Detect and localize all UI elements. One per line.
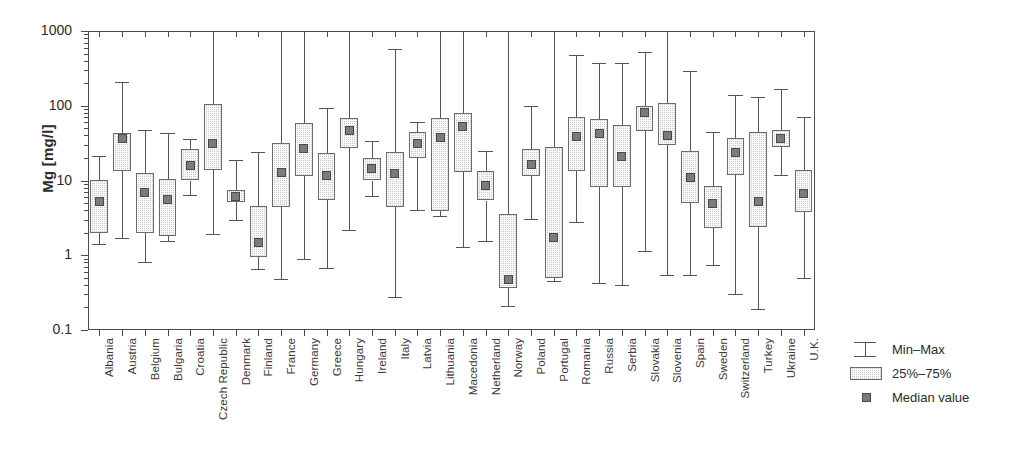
y-tick-major bbox=[81, 181, 88, 182]
x-tick-bottom bbox=[667, 330, 668, 336]
x-tick-label: Greece bbox=[331, 338, 343, 376]
y-tick-minor bbox=[84, 109, 88, 110]
y-tick-minor bbox=[84, 113, 88, 114]
x-tick-top bbox=[145, 31, 146, 37]
y-tick-minor bbox=[84, 122, 88, 123]
x-tick-top bbox=[758, 31, 759, 37]
x-tick-label: Serbia bbox=[626, 338, 638, 372]
y-tick-minor bbox=[84, 192, 88, 193]
x-tick-label: U.K. bbox=[808, 338, 820, 361]
x-tick-bottom bbox=[281, 330, 282, 336]
y-tick-major bbox=[81, 255, 88, 256]
x-tick-label: Poland bbox=[535, 338, 547, 374]
x-tick-label: Slovenia bbox=[671, 338, 683, 383]
x-tick-bottom bbox=[440, 330, 441, 336]
min-max-icon bbox=[846, 339, 886, 359]
whisker-lower bbox=[804, 212, 805, 278]
x-tick-label: Switzerland bbox=[739, 338, 751, 399]
legend-item-median: Median value bbox=[846, 385, 1016, 409]
x-tick-bottom bbox=[599, 330, 600, 336]
x-tick-top bbox=[440, 31, 441, 37]
x-tick-top bbox=[781, 31, 782, 37]
x-tick-bottom bbox=[99, 330, 100, 336]
y-tick-minor bbox=[84, 188, 88, 189]
y-tick-minor bbox=[84, 54, 88, 55]
x-tick-label: Norway bbox=[512, 338, 524, 378]
y-tick-minor bbox=[84, 34, 88, 35]
y-tick-minor bbox=[84, 83, 88, 84]
y-tick-minor bbox=[84, 128, 88, 129]
median-marker-icon bbox=[846, 387, 886, 407]
x-tick-top bbox=[349, 31, 350, 37]
y-tick-minor bbox=[84, 272, 88, 273]
y-tick-minor bbox=[84, 294, 88, 295]
x-tick-label: Netherland bbox=[490, 338, 502, 395]
x-tick-top bbox=[576, 31, 577, 37]
legend-label-min-max: Min–Max bbox=[886, 342, 945, 357]
y-tick-major bbox=[81, 330, 88, 331]
x-tick-bottom bbox=[531, 330, 532, 336]
y-tick-minor bbox=[84, 285, 88, 286]
x-tick-top bbox=[304, 31, 305, 37]
x-tick-bottom bbox=[804, 330, 805, 336]
x-tick-bottom bbox=[349, 330, 350, 336]
x-tick-top bbox=[554, 31, 555, 37]
y-tick-minor bbox=[84, 158, 88, 159]
median-marker bbox=[799, 189, 808, 198]
x-tick-label: Turkey bbox=[762, 338, 774, 373]
x-tick-top bbox=[508, 31, 509, 37]
x-tick-top bbox=[213, 31, 214, 37]
y-tick-minor bbox=[84, 184, 88, 185]
quartile-box-icon bbox=[846, 363, 886, 383]
x-tick-top bbox=[486, 31, 487, 37]
x-tick-label: Portugal bbox=[558, 338, 570, 382]
x-tick-bottom bbox=[576, 330, 577, 336]
x-tick-label: France bbox=[285, 338, 297, 374]
x-tick-label: Belgium bbox=[149, 338, 161, 380]
x-tick-label: Lithuania bbox=[444, 338, 456, 386]
x-tick-label: Bulgaria bbox=[172, 338, 184, 381]
y-tick-major bbox=[81, 31, 88, 32]
y-tick-minor bbox=[84, 48, 88, 49]
x-tick-top bbox=[327, 31, 328, 37]
x-tick-label: Latvia bbox=[421, 338, 433, 369]
x-tick-label: Spain bbox=[694, 338, 706, 368]
legend-label-quartiles: 25%–75% bbox=[886, 366, 951, 381]
x-tick-label: Macedonia bbox=[467, 338, 479, 395]
y-tick-minor bbox=[84, 210, 88, 211]
x-tick-bottom bbox=[372, 330, 373, 336]
legend-label-median: Median value bbox=[886, 390, 969, 405]
x-tick-top bbox=[190, 31, 191, 37]
x-tick-label: Italy bbox=[399, 338, 411, 360]
x-tick-top bbox=[258, 31, 259, 37]
y-tick-minor bbox=[84, 220, 88, 221]
x-tick-bottom bbox=[168, 330, 169, 336]
x-tick-top bbox=[599, 31, 600, 37]
x-tick-label: Russia bbox=[603, 338, 615, 374]
x-tick-top bbox=[713, 31, 714, 37]
whisker-cap-upper bbox=[797, 117, 811, 118]
x-tick-label: Romania bbox=[580, 338, 592, 385]
x-tick-label: Denmark bbox=[240, 338, 252, 385]
x-tick-label: Slovakia bbox=[649, 338, 661, 382]
y-tick-minor bbox=[84, 70, 88, 71]
x-tick-top bbox=[99, 31, 100, 37]
y-tick-major bbox=[81, 106, 88, 107]
x-tick-label: Sweden bbox=[717, 338, 729, 380]
x-tick-top bbox=[463, 31, 464, 37]
x-tick-top bbox=[417, 31, 418, 37]
x-tick-bottom bbox=[713, 330, 714, 336]
x-tick-bottom bbox=[735, 330, 736, 336]
x-tick-top bbox=[236, 31, 237, 37]
y-tick-minor bbox=[84, 203, 88, 204]
x-tick-bottom bbox=[622, 330, 623, 336]
x-tick-bottom bbox=[122, 330, 123, 336]
y-tick-minor bbox=[84, 262, 88, 263]
x-tick-top bbox=[622, 31, 623, 37]
x-tick-bottom bbox=[554, 330, 555, 336]
legend-item-min-max: Min–Max bbox=[846, 337, 1016, 361]
x-tick-label: Ukraine bbox=[785, 338, 797, 378]
x-tick-top bbox=[645, 31, 646, 37]
x-tick-label: Hungary bbox=[353, 338, 365, 382]
x-tick-label: Germany bbox=[308, 338, 320, 386]
